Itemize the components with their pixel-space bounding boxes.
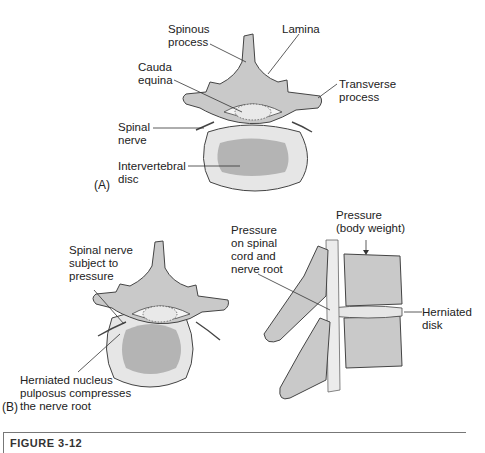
label-herniated-nucleus: Herniated nucleus pulposus compresses th… <box>20 374 131 413</box>
panel-a-tag: (A) <box>94 178 110 192</box>
label-herniated-disk: Herniated disk <box>422 306 472 332</box>
spinal-nerve-left <box>196 122 214 130</box>
figure-caption: FIGURE 3-12 <box>10 437 82 449</box>
cauda-equina <box>235 104 271 120</box>
label-intervertebral-disc: Intervertebral disc <box>118 160 186 186</box>
nucleus-pulposus <box>217 139 288 177</box>
label-pressure-body-weight: Pressure (body weight) <box>336 209 405 235</box>
label-spinal-nerve: Spinal nerve <box>118 121 150 147</box>
label-spinous-process: Spinous process <box>168 23 210 49</box>
panel-b-tag: (B) <box>2 400 18 414</box>
label-transverse-process: Transverse process <box>339 78 396 104</box>
label-cauda-equina: Cauda equina <box>138 61 173 87</box>
label-spinal-nerve-pressure: Spinal nerve subject to pressure <box>69 244 133 283</box>
label-pressure-cord: Pressure on spinal cord and nerve root <box>231 224 283 276</box>
label-lamina: Lamina <box>282 23 320 36</box>
